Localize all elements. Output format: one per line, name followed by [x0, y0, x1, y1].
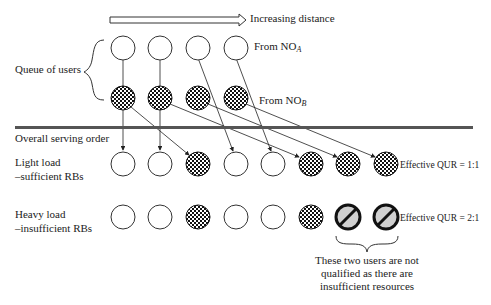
blocked-user-icon — [336, 205, 360, 229]
row-from-noa — [111, 36, 248, 60]
row-light-load — [111, 152, 398, 176]
insufficient-resources-note: These two users are not qualified as the… — [300, 254, 434, 293]
queue-of-users-label: Queue of users — [15, 63, 81, 76]
blocked-user-icon — [374, 205, 398, 229]
row-heavy-load — [111, 205, 323, 229]
from-noa-text: From NO — [254, 40, 296, 52]
from-nob-text: From NO — [259, 94, 301, 106]
note-line-2: qualified as there are — [300, 267, 434, 280]
note-brace-icon — [336, 236, 398, 252]
note-line-3: insufficient resources — [300, 280, 434, 293]
heavy-load-qur: Effective QUR = 2:1 — [400, 212, 479, 225]
distance-arrow-icon — [110, 14, 246, 26]
light-load-qur: Effective QUR = 1:1 — [400, 159, 479, 172]
heavy-load-label-1: Heavy load — [15, 208, 65, 221]
from-noa-sub: A — [296, 45, 301, 54]
heavy-load-label-2: –insufficient RBs — [15, 222, 92, 235]
row-from-nob — [111, 86, 248, 110]
increasing-distance-label: Increasing distance — [250, 12, 335, 25]
light-load-label-2: –sufficient RBs — [15, 170, 84, 183]
serving-order-label: Overall serving order — [15, 132, 109, 145]
light-load-label-1: Light load — [15, 156, 61, 169]
queue-brace-icon — [84, 40, 104, 100]
from-noa-label: From NOA — [254, 40, 301, 56]
note-line-1: These two users are not — [300, 254, 434, 267]
from-nob-label: From NOB — [259, 94, 306, 110]
from-nob-sub: B — [301, 99, 306, 108]
serving-order-divider — [15, 126, 473, 129]
